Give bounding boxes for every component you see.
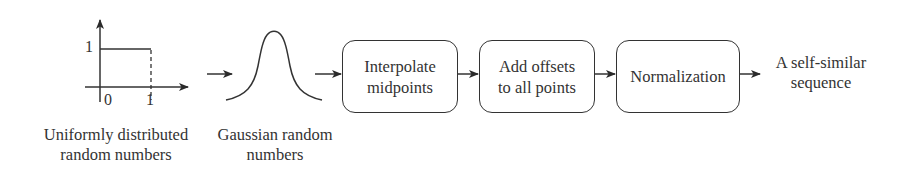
step-offsets-line1: Add offsets [498,56,576,77]
uniform-caption-line2: random numbers [28,145,204,165]
x-tick-label-1: 1 [146,91,154,109]
uniform-caption: Uniformly distributed random numbers [28,125,204,165]
step-offsets-line2: to all points [498,77,576,98]
gaussian-caption-line2: numbers [212,145,338,165]
uniform-caption-line1: Uniformly distributed [28,125,204,145]
gaussian-curve [226,31,322,100]
gaussian-caption: Gaussian random numbers [212,125,338,165]
step-add-offsets: Add offsets to all points [479,40,595,113]
step-normalization-label: Normalization [630,66,725,87]
output-label: A self-similar sequence [762,53,880,93]
y-tick-label-1: 1 [85,38,93,56]
output-line2: sequence [762,73,880,93]
step-interpolate-midpoints: Interpolate midpoints [342,40,458,113]
x-tick-label-0: 0 [104,91,112,109]
step-interpolate-line2: midpoints [364,77,435,98]
step-normalization: Normalization [616,40,740,113]
gaussian-caption-line1: Gaussian random [212,125,338,145]
output-line1: A self-similar [762,53,880,73]
step-interpolate-line1: Interpolate [364,56,435,77]
uniform-distribution-plot [85,20,188,102]
